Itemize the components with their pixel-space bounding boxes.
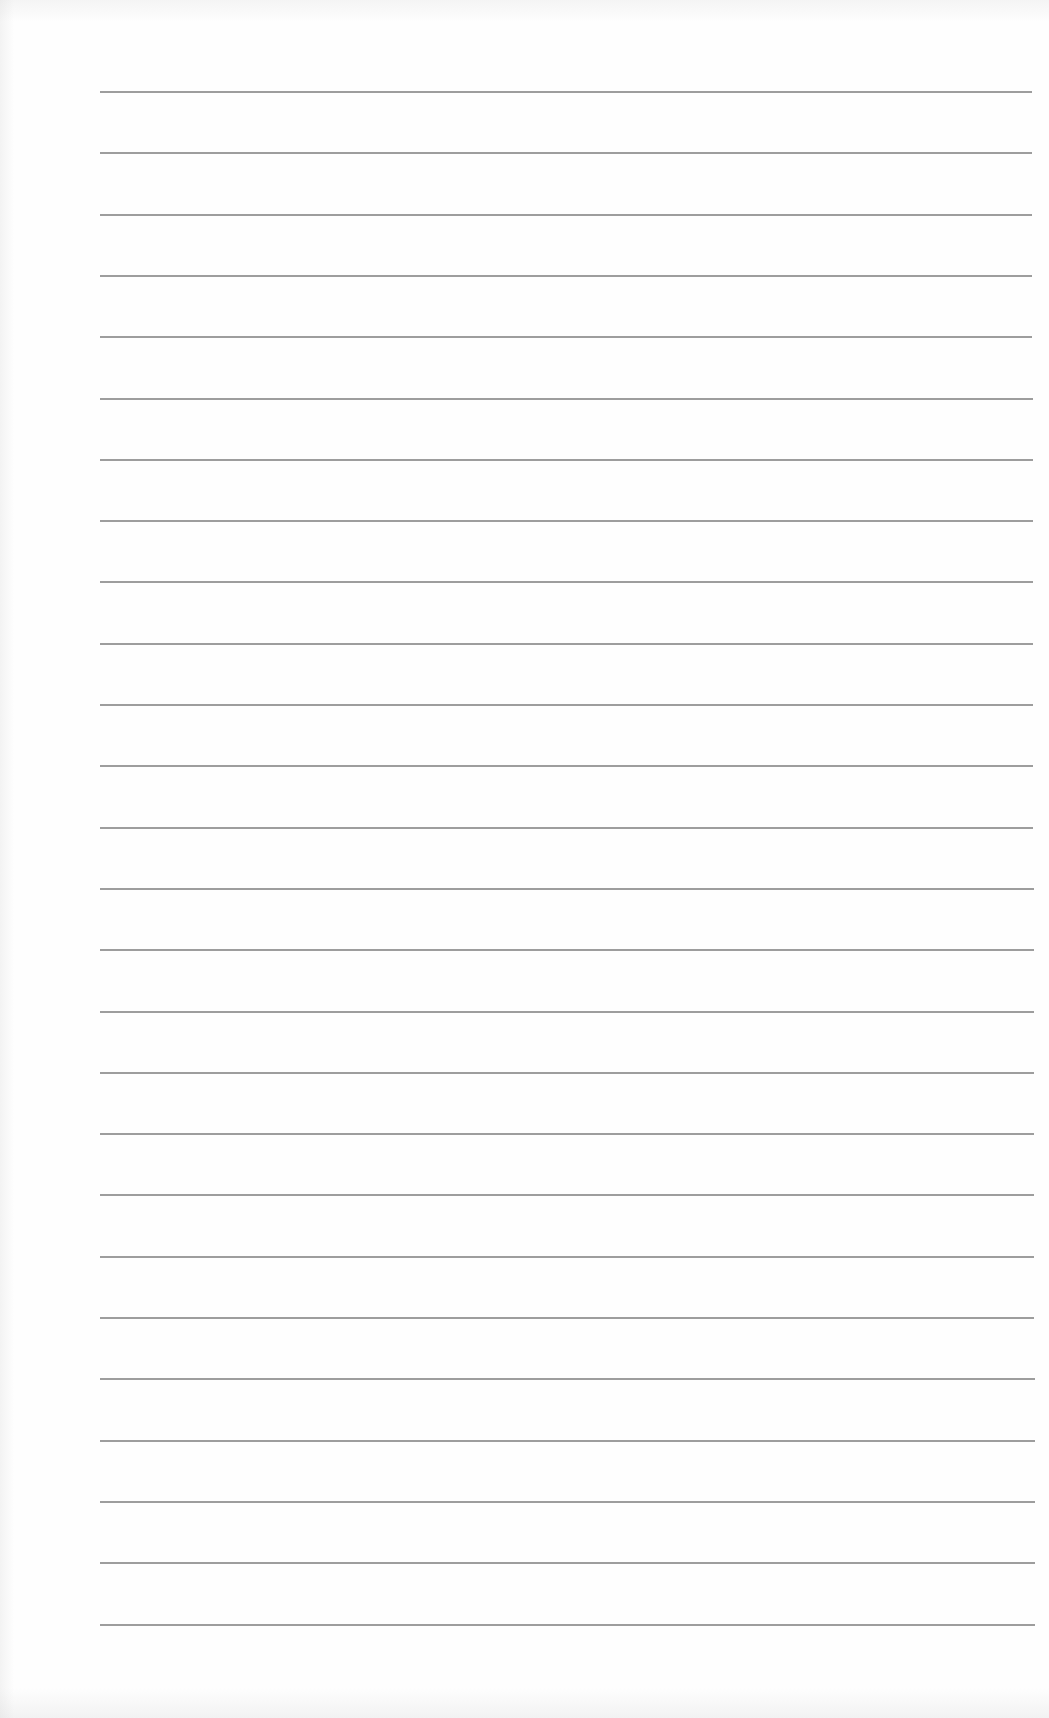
writing-area[interactable] — [100, 30, 1035, 1630]
lined-paper-page — [0, 0, 1049, 1718]
